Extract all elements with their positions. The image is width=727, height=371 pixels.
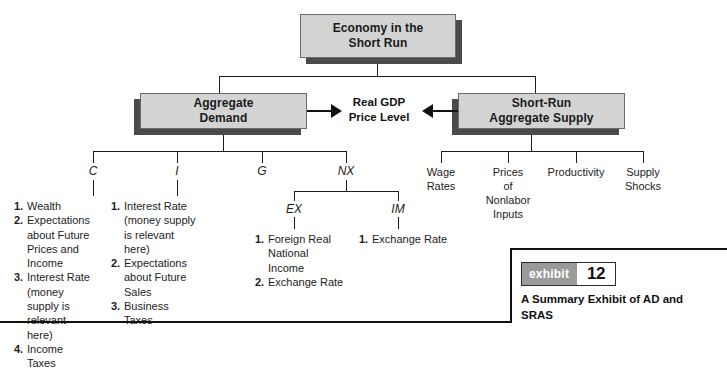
list-item: 1. Foreign Real National Income <box>255 232 347 275</box>
list-item: 1. Wealth <box>14 199 92 213</box>
list-im-factors: 1. Exchange Rate <box>359 232 459 246</box>
exhibit-caption: A Summary Exhibit of AD and SRAS <box>521 292 711 323</box>
arrow-sras-to-center-shaft <box>433 110 458 112</box>
connector-sras-branch-prices-nonlabor <box>508 151 509 163</box>
connector-sras-branch-wage-rates <box>441 151 442 163</box>
branch-label-i: I <box>157 164 197 178</box>
connector-i-to-list <box>177 180 178 196</box>
connector-nx-branch-im <box>398 191 399 201</box>
connector-ad-branch-nx <box>346 151 347 163</box>
list-item: 3. Interest Rate (money supply is releva… <box>14 270 92 341</box>
exhibit-badge-word: exhibit <box>522 263 577 285</box>
connector-nx-branch-ex <box>294 191 295 201</box>
connector-ad-branch-g <box>262 151 263 163</box>
list-item: 2. Expectations about Future Sales <box>111 256 197 299</box>
list-ex-factors: 1. Foreign Real National Income 2. Excha… <box>255 232 347 289</box>
connector-im-to-list <box>398 217 399 229</box>
connector-ad-branch-i <box>177 151 178 163</box>
connector-sras-branch-productivity <box>576 151 577 163</box>
sras-factor-wage-rates: Wage Rates <box>411 165 471 193</box>
connector-ad-bar <box>93 151 346 152</box>
frame-rule-top-right <box>510 248 727 250</box>
connector-sras-branch-supply-shocks <box>643 151 644 163</box>
branch-label-g: G <box>242 164 282 178</box>
connector-sras-stem <box>531 135 532 151</box>
center-label-real-gdp-price-level: Real GDP Price Level <box>339 95 419 125</box>
list-item: 3. Business Taxes <box>111 299 197 328</box>
box-sras-label: Short-Run Aggregate Supply <box>489 96 593 125</box>
box-aggregate-demand-label: Aggregate Demand <box>193 96 253 125</box>
connector-ad-branch-c <box>93 151 94 163</box>
arrow-ad-to-center-shaft <box>307 110 332 112</box>
list-item: 4. Income Taxes <box>14 342 92 371</box>
connector-ad-stem <box>223 135 224 151</box>
arrow-sras-to-center-head <box>422 104 433 118</box>
connector-sras-bar <box>441 151 643 152</box>
box-aggregate-demand: Aggregate Demand <box>140 93 307 129</box>
list-item: 2. Expectations about Future Prices and … <box>14 213 92 270</box>
list-i-factors: 1. Interest Rate (money supply is releva… <box>111 199 197 328</box>
box-economy-short-run-label: Economy in the Short Run <box>333 21 424 50</box>
list-c-factors: 1. Wealth 2. Expectations about Future P… <box>14 199 92 371</box>
connector-to-ad <box>219 76 220 93</box>
connector-nx-bar <box>294 191 398 192</box>
exhibit-badge: exhibit 12 <box>521 262 616 286</box>
connector-ex-to-list <box>294 217 295 229</box>
frame-rule-vertical <box>510 248 512 323</box>
branch-label-im: IM <box>378 202 418 216</box>
list-item: 1. Interest Rate (money supply is releva… <box>111 199 197 256</box>
list-item: 1. Exchange Rate <box>359 232 459 246</box>
box-economy-short-run: Economy in the Short Run <box>300 14 456 58</box>
branch-label-c: C <box>73 164 113 178</box>
sras-factor-supply-shocks: Supply Shocks <box>613 165 673 193</box>
branch-label-ex: EX <box>274 202 314 216</box>
box-short-run-aggregate-supply: Short-Run Aggregate Supply <box>458 93 625 129</box>
connector-c-to-list <box>93 180 94 196</box>
frame-rule-bottom <box>0 321 512 323</box>
exhibit-badge-number: 12 <box>577 263 615 285</box>
branch-label-nx: NX <box>326 164 366 178</box>
list-item: 2. Exchange Rate <box>255 275 347 289</box>
sras-factor-productivity: Productivity <box>539 165 613 179</box>
connector-to-sras <box>535 76 536 93</box>
connector-split-bar <box>219 76 536 77</box>
sras-factor-prices-of-nonlabor-inputs: Prices of Nonlabor Inputs <box>478 165 538 221</box>
connector-nx-stem <box>346 180 347 191</box>
